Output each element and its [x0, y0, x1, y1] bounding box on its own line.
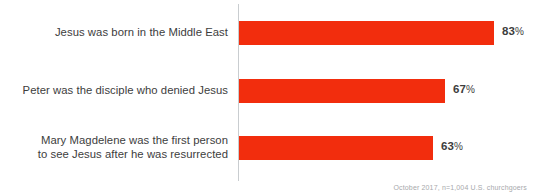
bar-value-label: 63% [441, 140, 463, 152]
bar-category-label: Peter was the disciple who denied Jesus [0, 83, 228, 97]
bar-value-number: 63 [441, 140, 454, 152]
bar-row: Mary Magdelene was the first person to s… [0, 136, 533, 160]
bar-track [239, 136, 433, 160]
percent-sign: % [454, 141, 463, 152]
bar-row: Peter was the disciple who denied Jesus … [0, 79, 533, 103]
plot-area: Jesus was born in the Middle East 83% Pe… [0, 0, 533, 178]
bar-fill [239, 79, 445, 103]
bar-fill [239, 21, 494, 45]
chart-footnote: October 2017, n=1,004 U.S. churchgoers [393, 184, 527, 191]
bar-track [239, 21, 494, 45]
bar-category-label: Jesus was born in the Middle East [0, 25, 228, 39]
percent-sign: % [466, 84, 475, 95]
bar-value-number: 83 [502, 25, 515, 37]
bar-fill [239, 136, 433, 160]
bar-row: Jesus was born in the Middle East 83% [0, 21, 533, 45]
percent-sign: % [515, 26, 524, 37]
bar-chart: Jesus was born in the Middle East 83% Pe… [0, 0, 533, 195]
bar-track [239, 79, 445, 103]
bar-category-label: Mary Magdelene was the first person to s… [0, 133, 228, 161]
bar-value-number: 67 [453, 83, 466, 95]
bar-value-label: 67% [453, 83, 475, 95]
bar-value-label: 83% [502, 25, 524, 37]
